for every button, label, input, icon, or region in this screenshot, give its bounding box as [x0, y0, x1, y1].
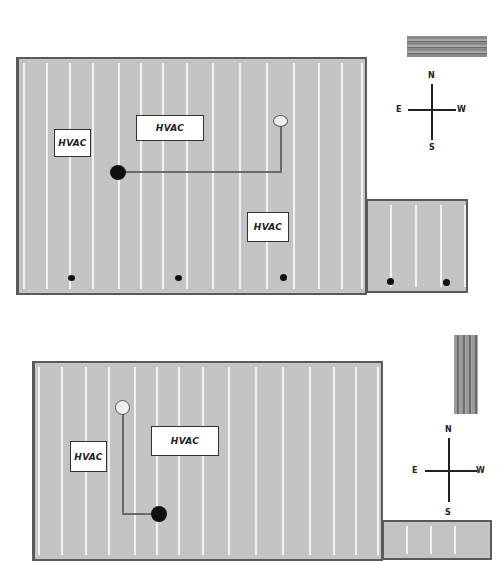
roof-seam: [156, 367, 158, 555]
hvac-unit: HVAC: [54, 129, 91, 157]
roof-seam: [282, 367, 284, 555]
top-main-roof: [16, 57, 367, 295]
bottom-annex-roof: [382, 520, 492, 560]
roof-seam: [23, 63, 25, 289]
roof-seam: [178, 367, 180, 555]
roof-seam: [430, 526, 432, 554]
roof-seam: [186, 63, 188, 289]
pipe-vertical: [280, 125, 282, 173]
roof-drain-icon: [68, 275, 75, 281]
roof-drain-icon: [280, 274, 287, 281]
vent-icon: [115, 400, 130, 415]
roof-seam: [92, 63, 94, 289]
roof-seam: [38, 367, 40, 555]
roof-seam: [333, 367, 335, 555]
roof-drain-icon: [110, 165, 126, 180]
compass-north: N: [445, 426, 452, 434]
hvac-unit: HVAC: [151, 426, 219, 456]
roof-seam: [202, 367, 204, 555]
roof-seam: [390, 205, 392, 287]
roof-seam: [341, 63, 343, 289]
roof-seam: [361, 63, 363, 289]
top-annex-roof: [366, 199, 468, 293]
roof-seam: [255, 367, 257, 555]
pipe-vertical: [122, 414, 124, 515]
roof-seam: [293, 63, 295, 289]
compass-south: S: [445, 509, 451, 517]
roof-seam: [440, 205, 442, 287]
roof-seam: [464, 205, 466, 287]
roof-seam: [69, 63, 71, 289]
roof-seam: [266, 63, 268, 289]
compass-west: W: [457, 106, 466, 114]
roof-seam: [140, 63, 142, 289]
roof-seam: [355, 367, 357, 555]
roof-drain-icon: [443, 279, 450, 286]
roof-seam: [228, 367, 230, 555]
material-swatch: [454, 335, 478, 414]
roof-seam: [309, 367, 311, 555]
compass-east: E: [396, 106, 401, 114]
hvac-unit: HVAC: [136, 115, 204, 141]
roof-seam: [415, 205, 417, 287]
roof-seam: [318, 63, 320, 289]
roof-drain-icon: [387, 278, 394, 285]
roof-seam: [108, 367, 110, 555]
pipe-horizontal: [118, 171, 282, 173]
roof-seam: [406, 526, 408, 554]
hvac-unit: HVAC: [70, 441, 107, 472]
roof-drain-icon: [175, 275, 182, 281]
compass-south: S: [429, 144, 435, 152]
compass-east: E: [412, 467, 417, 475]
roof-seam: [212, 63, 214, 289]
vent-icon: [273, 115, 288, 127]
roof-seam: [239, 63, 241, 289]
roof-seam: [61, 367, 63, 555]
compass-west: W: [476, 467, 485, 475]
roof-drain-icon: [151, 506, 167, 522]
roof-seam: [162, 63, 164, 289]
roof-seam: [46, 63, 48, 289]
roof-seam: [377, 367, 379, 555]
roof-seam: [134, 367, 136, 555]
material-swatch: [407, 36, 487, 57]
roof-seam: [454, 526, 456, 554]
hvac-unit: HVAC: [247, 212, 289, 242]
compass-north: N: [428, 72, 435, 80]
